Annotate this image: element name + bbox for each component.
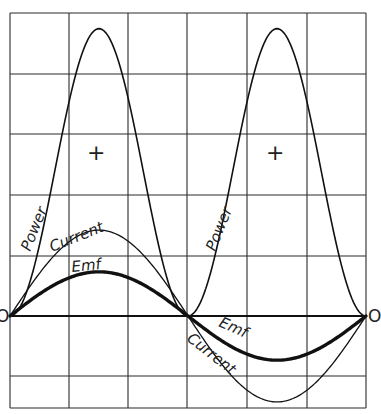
plus-sign-right: + bbox=[266, 140, 284, 165]
plus-sign-left: + bbox=[87, 140, 105, 165]
power-label-left: Power bbox=[17, 203, 51, 253]
grid bbox=[10, 13, 366, 408]
origin-label-left: O bbox=[0, 306, 9, 326]
emf-label-left: Emf bbox=[71, 255, 105, 276]
power-current-emf-diagram: + + Power Power Current Emf Emf Current … bbox=[0, 0, 381, 414]
power-curve bbox=[10, 29, 366, 316]
power-label-right: Power bbox=[202, 203, 236, 253]
current-label-left: Current bbox=[47, 217, 108, 255]
origin-label-right: O bbox=[368, 306, 381, 326]
